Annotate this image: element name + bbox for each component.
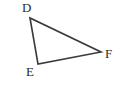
vertex-label-e: E	[26, 65, 34, 78]
geometry-figure: D E F	[0, 0, 124, 87]
triangle-svg	[0, 0, 124, 87]
vertex-label-d: D	[22, 1, 31, 14]
triangle-def-outline	[30, 18, 101, 64]
vertex-label-f: F	[105, 47, 112, 60]
